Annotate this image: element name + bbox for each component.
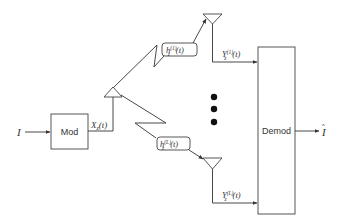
svg-text:Y(1)z(t): Y(1)z(t) [222, 49, 240, 61]
output-symbol-label: I [321, 126, 327, 138]
svg-text:Y(L)z(t): Y(L)z(t) [222, 190, 241, 202]
rx-signal-1-label: Y(1)z(t) [222, 49, 240, 61]
rx-antenna-L-icon [203, 158, 222, 169]
tx-antenna-icon [104, 87, 122, 97]
channel-1-path [113, 45, 164, 88]
demod-block: Demod [258, 47, 295, 214]
diversity-block-diagram: I Mod Xz(t) h(1)z(t) Y(1)z(t) h(L)z(t) [0, 0, 342, 224]
demod-label: Demod [262, 126, 291, 136]
rx-signal-L-label: Y(L)z(t) [222, 190, 241, 202]
input-symbol: I [16, 126, 22, 138]
mod-label: Mod [61, 127, 79, 137]
channel-1-arrow [193, 19, 206, 43]
input-symbol-label: I [16, 126, 22, 138]
mod-block: Mod [51, 114, 88, 149]
channel-1-label: h(1)z(t) [162, 43, 197, 57]
channel-L-label: h(L)z(t) [157, 137, 190, 151]
tx-signal-label: Xz(t) [90, 120, 107, 131]
ellipsis-dots [211, 94, 217, 125]
output-symbol: ^ I [321, 123, 327, 138]
channel-L-arrow [189, 150, 203, 159]
svg-text:Xz(t): Xz(t) [90, 120, 107, 131]
channel-L-path [121, 95, 166, 138]
